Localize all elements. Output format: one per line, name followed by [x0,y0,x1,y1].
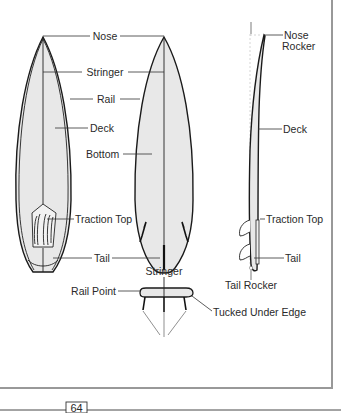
label-nose-rocker-2: Rocker [282,40,316,52]
rail-cross-section [140,277,193,337]
label-stringer-section: Stringer [146,265,183,277]
label-deck-left: Deck [90,122,115,134]
label-bottom: Bottom [86,148,120,160]
label-stringer: Stringer [87,66,124,78]
side-profile-board [239,22,265,280]
label-tucked-under-edge: Tucked Under Edge [213,306,306,318]
label-traction-top-left: Traction Top [75,213,132,225]
label-tail-left: Tail [94,252,110,264]
label-tail-right: Tail [285,252,301,264]
label-deck-right: Deck [283,123,308,135]
label-nose: Nose [93,30,118,42]
label-rail-point: Rail Point [71,285,116,297]
page-number: 64 [70,402,82,413]
label-tail-rocker: Tail Rocker [225,279,277,291]
label-rail: Rail [97,93,115,105]
traction-pad [32,204,56,247]
label-traction-top-right: Traction Top [266,213,323,225]
surfboard-diagram: 64 [0,0,341,413]
